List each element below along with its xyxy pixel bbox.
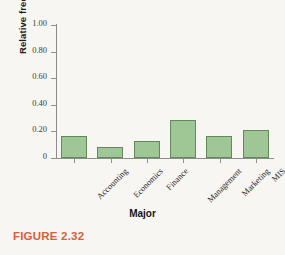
- y-tick-label-5: 1.00: [32, 18, 47, 28]
- x-tick: [147, 158, 148, 163]
- bar-slot: [129, 25, 165, 158]
- plot-area: 0 0.20 0.40 0.60 0.80 1.00: [56, 25, 274, 158]
- bar-series: [56, 25, 274, 158]
- x-category-label: Management: [205, 166, 243, 204]
- x-tick: [111, 158, 112, 163]
- x-category-label: MIS: [269, 166, 285, 184]
- bar: [170, 120, 196, 158]
- figure-caption: FIGURE 2.32: [13, 230, 84, 242]
- y-tick-label-2: 0.40: [32, 98, 47, 108]
- bar-slot: [92, 25, 128, 158]
- x-category-label: Marketing: [239, 166, 271, 198]
- figure-page: Relative frequency 0 0.20 0.40 0.60 0.80…: [0, 0, 285, 255]
- x-category-label: Economics: [131, 166, 165, 200]
- bar: [61, 136, 87, 158]
- x-tick: [256, 158, 257, 163]
- y-tick-label-3: 0.60: [32, 71, 47, 81]
- x-tick: [74, 158, 75, 163]
- x-axis-label: Major: [0, 208, 285, 219]
- bar-slot: [165, 25, 201, 158]
- bar-slot: [201, 25, 237, 158]
- y-tick-0: 0: [51, 158, 56, 159]
- bar: [97, 147, 123, 158]
- bar: [243, 130, 269, 158]
- y-tick-label-4: 0.80: [32, 45, 47, 55]
- x-tick: [220, 158, 221, 163]
- y-axis-label: Relative frequency: [17, 0, 28, 54]
- bar-chart: Relative frequency 0 0.20 0.40 0.60 0.80…: [0, 0, 285, 215]
- x-axis-line: [56, 158, 274, 159]
- x-category-label: Finance: [164, 166, 190, 192]
- bar-slot: [56, 25, 92, 158]
- bar: [134, 141, 160, 158]
- bar-slot: [238, 25, 274, 158]
- y-tick-label-0: 0: [43, 151, 47, 161]
- x-category-label: Accounting: [95, 166, 130, 201]
- bar: [206, 136, 232, 158]
- y-tick-label-1: 0.20: [32, 124, 47, 134]
- x-tick: [183, 158, 184, 163]
